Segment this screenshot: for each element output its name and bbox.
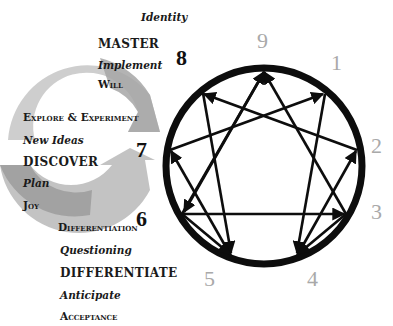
enneagram-lines [170,72,357,256]
point-5-label: 5 [204,268,215,290]
implement-label: Implement [98,60,162,71]
point-4-label: 4 [307,268,318,290]
acceptance-label: Acceptance [60,311,117,322]
will-label: Will [98,79,123,90]
new-ideas-label: New Ideas [23,135,84,146]
master-label: MASTER [98,38,159,50]
point-1-label: 1 [331,52,342,74]
point-2-label: 2 [371,135,382,157]
point-7-label: 7 [136,139,147,161]
joy-label: Joy [23,200,39,211]
differentiate-label: DIFFERENTIATE [60,267,177,279]
point-8-label: 8 [176,47,187,69]
identity-label: Identity [141,12,187,23]
enneagram-circle [166,68,362,264]
plan-label: Plan [23,178,49,189]
anticipate-label: Anticipate [60,290,121,301]
point-3-label: 3 [371,201,382,223]
questioning-label: Questioning [60,245,132,256]
explore-experiment-label: Explore & Experiment [23,112,138,123]
differentiation-label: Differentiation [58,222,138,233]
discover-label: DISCOVER [23,156,98,168]
point-9-label: 9 [257,30,268,52]
